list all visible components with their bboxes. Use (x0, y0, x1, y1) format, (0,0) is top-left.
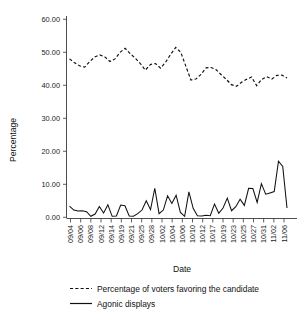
x-tick-label-09-28: 09/28 (147, 225, 156, 243)
y-tick-label-10: 10.00 (42, 180, 61, 189)
x-tick-label-10-31: 10/31 (259, 225, 268, 243)
y-tick-label-60: 60.00 (42, 15, 61, 24)
x-tick-label-10-17: 10/17 (208, 225, 217, 243)
x-axis-title: Date (173, 264, 191, 274)
x-tick-label-09-12: 09/12 (97, 225, 106, 243)
x-tick-label-11-02: 11/02 (269, 225, 278, 242)
y-tick-label-0: 0.00 (46, 213, 60, 222)
line-chart: 60.00 50.00 40.00 30.00 20.00 10.00 0.00… (0, 0, 304, 318)
x-tick-label-10-27: 10/27 (249, 225, 258, 243)
x-tick-label-09-04: 09/04 (66, 225, 75, 243)
x-tick-label-10-06: 10/06 (178, 225, 187, 243)
x-tick-label-09-06: 09/06 (76, 225, 85, 243)
y-axis-ticks: 60.00 50.00 40.00 30.00 20.00 10.00 0.00 (42, 15, 67, 222)
x-tick-label-10-02: 10/02 (158, 225, 167, 243)
series-line-agonic (70, 161, 288, 216)
x-tick-label-09-14: 09/14 (107, 225, 116, 243)
x-tick-label-10-25: 10/25 (239, 225, 248, 243)
x-tick-label-09-08: 09/08 (86, 225, 95, 243)
series-line-voters (70, 47, 288, 86)
y-axis-title: Percentage (8, 118, 18, 162)
legend-label-agonic: Agonic displays (97, 299, 155, 309)
x-tick-label-10-23: 10/23 (229, 225, 238, 243)
y-tick-label-50: 50.00 (42, 48, 61, 57)
x-tick-label-10-10: 10/10 (188, 225, 197, 243)
x-axis-tick-labels: 09/0409/0609/0809/1209/1409/1909/2109/25… (66, 225, 289, 243)
chart-figure: 60.00 50.00 40.00 30.00 20.00 10.00 0.00… (0, 0, 304, 318)
axis-lines (67, 16, 298, 219)
x-tick-label-10-19: 10/19 (219, 225, 228, 243)
x-tick-label-11-06: 11/06 (280, 225, 289, 242)
legend-label-voters: Percentage of voters favoring the candid… (97, 284, 259, 294)
x-tick-label-09-21: 09/21 (127, 225, 136, 243)
chart-legend: Percentage of voters favoring the candid… (70, 284, 259, 309)
x-axis-ticks (71, 219, 285, 223)
y-tick-label-40: 40.00 (42, 81, 61, 90)
x-tick-label-09-19: 09/19 (117, 225, 126, 243)
x-tick-label-09-25: 09/25 (137, 225, 146, 243)
y-tick-label-20: 20.00 (42, 147, 61, 156)
x-tick-label-10-12: 10/12 (198, 225, 207, 243)
y-tick-label-30: 30.00 (42, 114, 61, 123)
x-tick-label-10-04: 10/04 (168, 225, 177, 243)
